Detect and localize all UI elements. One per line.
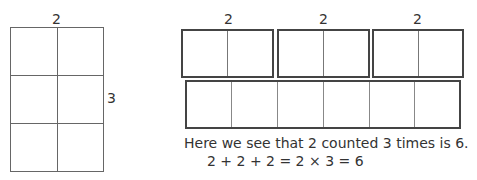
group-label-2: 2 <box>319 12 328 26</box>
group-box-1 <box>181 29 274 78</box>
cell-divider <box>369 82 370 127</box>
left-array-grid <box>10 27 104 172</box>
cell-divider <box>323 82 324 127</box>
group-box-2 <box>277 29 370 78</box>
cell-divider <box>418 31 419 76</box>
group-box-3 <box>372 29 464 78</box>
grid-divider <box>11 123 103 124</box>
grid-divider <box>11 75 103 76</box>
caption-sentence: Here we see that 2 counted 3 times is 6. <box>184 135 469 151</box>
cell-divider <box>277 82 278 127</box>
cell-divider <box>227 31 228 76</box>
left-rows-label: 3 <box>107 91 116 105</box>
grid-divider <box>57 28 58 171</box>
left-columns-label: 2 <box>52 12 61 26</box>
group-label-1: 2 <box>224 12 233 26</box>
cell-divider <box>414 82 415 127</box>
cell-divider <box>323 31 324 76</box>
group-label-3: 2 <box>413 12 422 26</box>
cell-divider <box>231 82 232 127</box>
caption-equation: 2 + 2 + 2 = 2 × 3 = 6 <box>207 153 364 169</box>
combined-box <box>185 80 461 129</box>
